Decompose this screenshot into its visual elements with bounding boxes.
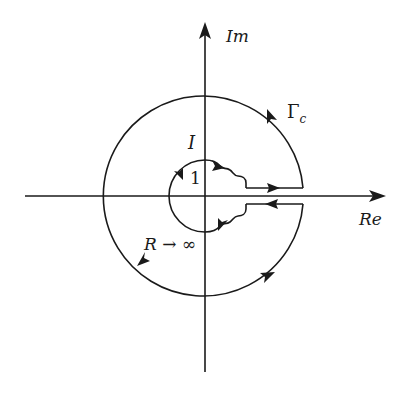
- outer-radius-label: R → ∞: [144, 236, 196, 253]
- contour-subscript: c: [300, 112, 307, 126]
- arrow-inner-bottom-icon: [218, 218, 228, 231]
- imag-axis-label: Im: [226, 28, 249, 45]
- arrow-radius-icon: [174, 168, 183, 180]
- arrow-inner-top-icon: [212, 160, 225, 171]
- contour-label: Γc: [287, 103, 306, 125]
- contour-diagram: Im Re Γc I 1 R → ∞: [0, 0, 406, 393]
- real-axis-label: Re: [359, 211, 382, 228]
- contour-symbol: Γ: [287, 101, 300, 122]
- contour-plot: [0, 0, 406, 393]
- inner-radius-label: 1: [190, 170, 201, 187]
- inner-region-label: I: [188, 134, 195, 152]
- arrow-outer-top-icon: [267, 109, 277, 124]
- arrow-outer-bottomleft-icon: [137, 252, 150, 266]
